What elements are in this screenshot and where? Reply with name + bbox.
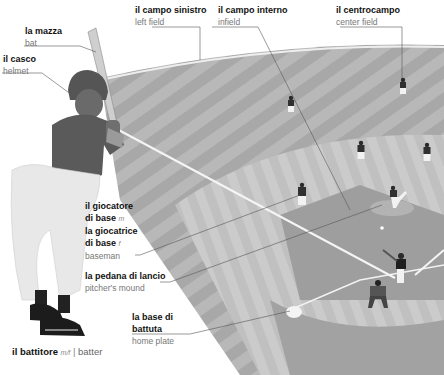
label-mound-en: pitcher's mound xyxy=(85,282,166,294)
fielder-center xyxy=(400,78,406,94)
label-baseman-it-1: il giocatore xyxy=(85,200,138,212)
label-baseman-it-2: di base m xyxy=(85,212,138,225)
fielder-left xyxy=(288,96,294,112)
shoe xyxy=(40,317,85,336)
label-center-field-en: center field xyxy=(336,16,400,28)
label-left-field-en: left field xyxy=(135,16,207,28)
label-bat: la mazza bat xyxy=(25,25,62,49)
label-home-plate-en: home plate xyxy=(132,335,174,347)
label-mound-it: la pedana di lancio xyxy=(85,270,166,282)
label-baseman: il giocatore di base m la giocatrice di … xyxy=(85,200,138,262)
label-home-plate-it-1: la base di xyxy=(132,311,174,323)
caption-batter: il battitore m/f | batter xyxy=(12,346,102,357)
caption-separator: | xyxy=(73,346,75,357)
label-helmet: il casco helmet xyxy=(3,53,36,77)
caption-it: il battitore xyxy=(12,346,58,357)
label-infield-en: infield xyxy=(218,16,288,28)
home-plate-marker xyxy=(286,306,302,318)
label-center-field: il centrocampo center field xyxy=(336,4,400,28)
caption-en: batter xyxy=(78,346,102,357)
caption-gender: m/f xyxy=(61,349,71,356)
label-baseman-en: baseman xyxy=(85,250,138,262)
label-baseman-it-4: di base f xyxy=(85,237,138,250)
label-bat-it: la mazza xyxy=(25,25,62,37)
label-baseman-it-3: la giocatrice xyxy=(85,225,138,237)
leader-left-field xyxy=(152,27,200,60)
label-left-field-it: il campo sinistro xyxy=(135,4,207,16)
label-center-field-it: il centrocampo xyxy=(336,4,400,16)
gender-masculine: m xyxy=(119,215,125,222)
baseball-illustration: la mazza bat il casco helmet il campo si… xyxy=(0,0,444,375)
label-helmet-it: il casco xyxy=(3,53,36,65)
label-bat-en: bat xyxy=(25,37,62,49)
label-home-plate: la base di battuta home plate xyxy=(132,311,174,347)
ball xyxy=(380,226,384,230)
label-home-plate-it-2: battuta xyxy=(132,323,174,335)
field-artwork xyxy=(0,0,444,375)
label-infield-it: il campo interno xyxy=(218,4,288,16)
label-helmet-en: helmet xyxy=(3,65,36,77)
label-pitchers-mound: la pedana di lancio pitcher's mound xyxy=(85,270,166,294)
label-infield: il campo interno infield xyxy=(218,4,288,28)
gender-feminine: f xyxy=(119,240,121,247)
label-left-field: il campo sinistro left field xyxy=(135,4,207,28)
